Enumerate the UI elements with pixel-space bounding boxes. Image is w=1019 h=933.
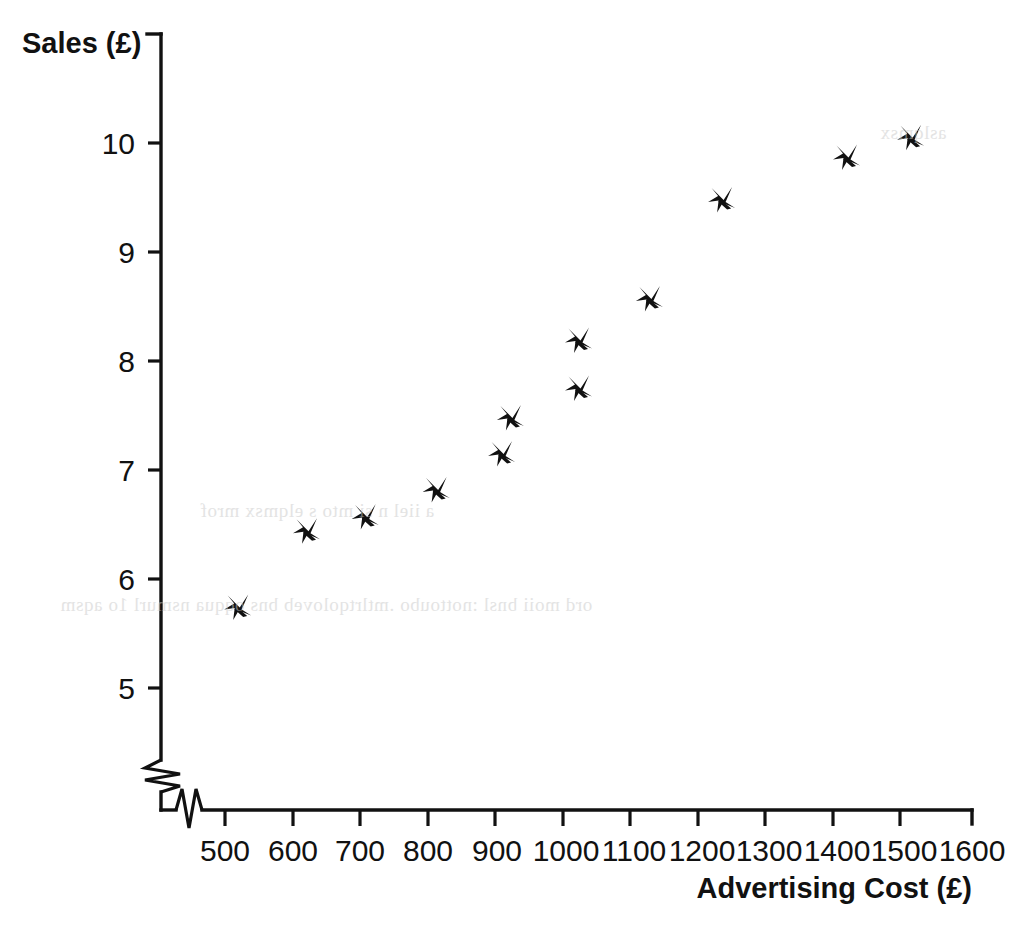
y-axis-title: Sales (£) xyxy=(22,27,141,59)
data-point-marker xyxy=(293,518,320,544)
data-point-marker xyxy=(708,187,735,213)
y-axis: 10 9 8 7 6 5 Sales (£) xyxy=(22,27,180,810)
x-tick-label-1100: 1100 xyxy=(602,834,667,867)
x-tick-label-1000: 1000 xyxy=(533,834,600,867)
x-axis: 500 600 700 800 900 1000 1100 1200 1300 … xyxy=(161,789,1005,904)
y-tick-label-10: 10 xyxy=(102,127,135,160)
x-axis-title: Advertising Cost (£) xyxy=(696,872,972,904)
x-tick-label-1200: 1200 xyxy=(669,834,736,867)
x-tick-label-1600: 1600 xyxy=(939,834,1006,867)
y-tick-marks xyxy=(148,143,161,688)
y-tick-label-6: 6 xyxy=(118,563,135,596)
data-point-series xyxy=(224,125,924,620)
y-tick-label-7: 7 xyxy=(118,454,135,487)
y-tick-label-8: 8 xyxy=(118,345,135,378)
data-point-marker xyxy=(565,328,592,354)
y-tick-label-5: 5 xyxy=(118,672,135,705)
data-point-marker xyxy=(488,441,515,467)
x-tick-label-500: 500 xyxy=(200,834,250,867)
data-point-marker xyxy=(423,477,450,503)
data-point-marker xyxy=(897,125,924,151)
x-tick-labels: 500 600 700 800 900 1000 1100 1200 1300 … xyxy=(200,834,1005,867)
data-point-marker xyxy=(833,144,860,170)
y-tick-labels: 10 9 8 7 6 5 xyxy=(102,127,135,705)
y-tick-label-9: 9 xyxy=(118,236,135,269)
x-tick-label-700: 700 xyxy=(335,834,385,867)
data-point-marker xyxy=(224,595,251,621)
data-point-marker xyxy=(636,286,663,312)
x-tick-label-600: 600 xyxy=(268,834,318,867)
data-point-marker xyxy=(565,376,592,402)
data-point-marker xyxy=(497,405,524,431)
x-tick-label-800: 800 xyxy=(403,834,453,867)
scatter-plot-figure: ord moii bnsl :nottoubo .mtlrtqoloveb bn… xyxy=(0,0,1019,933)
x-tick-label-1400: 1400 xyxy=(804,834,871,867)
x-tick-label-1300: 1300 xyxy=(736,834,803,867)
plot-canvas: 10 9 8 7 6 5 Sales (£) xyxy=(0,0,1019,933)
x-tick-label-900: 900 xyxy=(472,834,522,867)
x-tick-marks xyxy=(225,810,900,826)
x-tick-label-1500: 1500 xyxy=(871,834,938,867)
data-point-marker xyxy=(352,504,379,530)
